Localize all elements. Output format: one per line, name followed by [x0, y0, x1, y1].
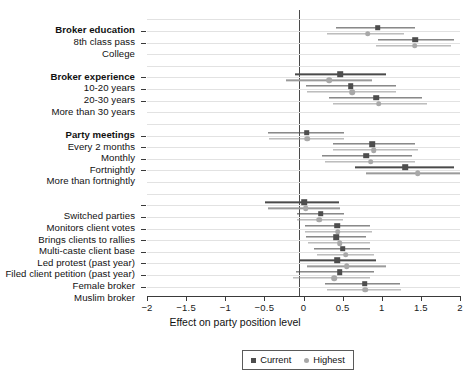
- point-estimate-high: [363, 287, 369, 293]
- x-axis-tick-label: 0.5: [323, 302, 363, 313]
- point-estimate-high: [371, 147, 377, 153]
- row-label: Multi-caste client base: [39, 245, 135, 256]
- row-label: Switched parties: [64, 210, 135, 221]
- x-axis-tick: [343, 296, 344, 301]
- gridline: [147, 275, 460, 276]
- point-estimate-cur: [334, 223, 340, 229]
- x-axis-tick-label: 2: [440, 302, 470, 313]
- y-axis-tick: [141, 159, 146, 160]
- gridline: [147, 19, 460, 20]
- point-estimate-cur: [304, 130, 310, 136]
- gridline: [147, 229, 460, 230]
- legend-label-highest: Highest: [313, 355, 345, 365]
- point-estimate-high: [365, 31, 371, 37]
- confidence-interval-high: [366, 173, 460, 174]
- gridline: [147, 124, 460, 125]
- row-label: 10-20 years: [84, 82, 135, 93]
- gridline: [147, 112, 460, 113]
- gridline: [147, 240, 460, 241]
- gridline: [147, 136, 460, 137]
- gridline: [147, 31, 460, 32]
- x-axis-tick: [382, 296, 383, 301]
- point-estimate-cur: [370, 141, 376, 147]
- y-axis-tick: [141, 263, 146, 264]
- gridline: [147, 101, 460, 102]
- x-axis-tick: [186, 296, 187, 301]
- point-estimate-high: [343, 252, 349, 258]
- y-axis-tick: [141, 217, 146, 218]
- x-axis-tick: [264, 296, 265, 301]
- legend-marker-circle-icon: [304, 358, 309, 363]
- y-axis-tick: [141, 205, 146, 206]
- point-estimate-cur: [348, 83, 354, 89]
- point-estimate-cur: [302, 200, 308, 206]
- point-estimate-high: [412, 43, 418, 49]
- legend-entry-current: Current: [251, 355, 291, 365]
- point-estimate-high: [316, 217, 322, 223]
- point-estimate-cur: [337, 269, 343, 275]
- point-estimate-cur: [334, 234, 340, 240]
- point-estimate-cur: [402, 165, 408, 171]
- y-axis-tick: [141, 252, 146, 253]
- forest-plot-figure: Broker education8th class passCollegeBro…: [0, 0, 470, 382]
- point-estimate-high: [344, 264, 350, 270]
- group-header-label: Broker experience: [50, 70, 135, 81]
- y-axis-tick: [141, 147, 146, 148]
- gridline: [147, 89, 460, 90]
- legend-entry-highest: Highest: [304, 355, 345, 365]
- gridline: [147, 66, 460, 67]
- row-label: Monitors client votes: [47, 221, 136, 232]
- x-axis-tick: [460, 296, 461, 301]
- gridline: [147, 170, 460, 171]
- point-estimate-high: [305, 136, 311, 142]
- y-axis-tick: [141, 43, 146, 44]
- row-label: 20-30 years: [84, 94, 135, 105]
- x-axis-tick: [304, 296, 305, 301]
- point-estimate-cur: [375, 25, 381, 31]
- group-header-label: Broker education: [55, 24, 135, 35]
- row-label: College: [102, 47, 135, 58]
- y-axis-tick: [141, 101, 146, 102]
- row-label: 8th class pass: [74, 35, 136, 46]
- row-label: Filed client petition (past year): [5, 268, 135, 279]
- y-axis-tick: [141, 229, 146, 230]
- group-header-label: Party meetings: [66, 128, 135, 139]
- x-axis-tick: [225, 296, 226, 301]
- y-axis-tick: [141, 77, 146, 78]
- y-axis-tick: [141, 240, 146, 241]
- x-axis-tick-label: 0: [284, 302, 324, 313]
- y-axis-tick: [141, 136, 146, 137]
- confidence-interval-cur: [296, 271, 374, 272]
- point-estimate-cur: [340, 246, 346, 252]
- legend-marker-square-icon: [251, 358, 256, 363]
- point-estimate-cur: [318, 211, 324, 217]
- row-label: Muslim broker: [74, 291, 135, 302]
- y-axis-tick: [141, 31, 146, 32]
- point-estimate-cur: [334, 258, 340, 264]
- x-axis-tick-label: −1.5: [166, 302, 206, 313]
- point-estimate-cur: [374, 95, 380, 101]
- row-label-column: Broker education8th class passCollegeBro…: [0, 10, 143, 296]
- row-label: More than 30 years: [51, 105, 135, 116]
- x-axis-title: Effect on party position level: [0, 316, 470, 328]
- point-estimate-cur: [362, 281, 368, 287]
- point-estimate-high: [415, 171, 421, 177]
- gridline: [147, 159, 460, 160]
- point-estimate-high: [349, 89, 355, 95]
- zero-reference-line: [299, 10, 300, 296]
- point-estimate-high: [303, 206, 309, 212]
- row-label: Every 2 months: [68, 140, 135, 151]
- y-axis-tick: [141, 275, 146, 276]
- x-axis-tick-label: 1.5: [401, 302, 441, 313]
- y-axis-tick: [141, 89, 146, 90]
- x-axis-tick: [421, 296, 422, 301]
- x-axis-tick-label: −0.5: [244, 302, 284, 313]
- gridline: [147, 77, 460, 78]
- row-label: Monthly: [101, 152, 135, 163]
- gridline: [147, 263, 460, 264]
- legend-label-current: Current: [260, 355, 291, 365]
- x-axis-tick: [147, 296, 148, 301]
- gridline: [147, 147, 460, 148]
- gridline: [147, 54, 460, 55]
- row-label: Female broker: [73, 280, 136, 291]
